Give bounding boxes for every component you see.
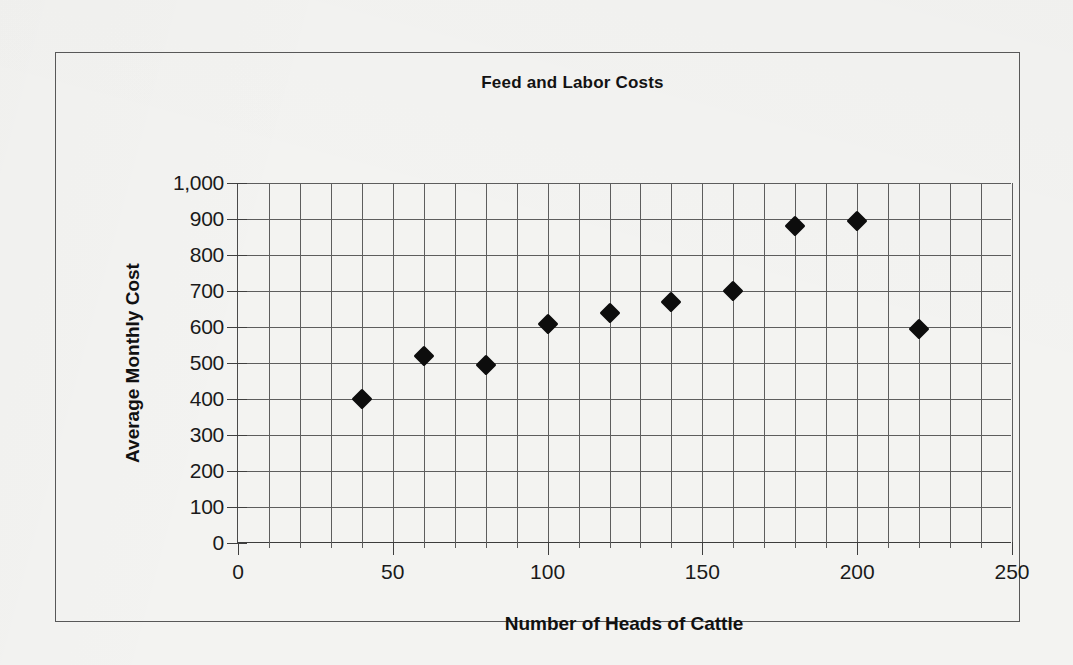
y-axis-tick [227,471,238,472]
y-axis-tick-label: 400 [190,387,224,411]
data-point [537,314,558,335]
x-axis-tick-minor [362,542,363,548]
x-axis-tick-minor [517,542,518,548]
y-axis-tick-inner [238,435,247,436]
x-axis-tick-label: 250 [994,560,1029,584]
gridline-horizontal [238,291,1011,292]
x-axis-title: Number of Heads of Cattle [237,613,1011,635]
y-axis-tick-label: 300 [190,423,224,447]
gridline-horizontal [238,255,1011,256]
y-axis-tick [227,327,238,328]
y-axis-tick-label: 700 [190,279,224,303]
x-axis-tick-minor [331,542,332,548]
data-point [723,280,744,301]
gridline-horizontal [238,183,1011,184]
gridline-horizontal [238,363,1011,364]
gridline-horizontal [238,507,1011,508]
y-axis-tick-inner [238,183,247,184]
x-axis-tick-minor [579,542,580,548]
x-axis-tick [857,542,858,555]
y-axis-tick [227,507,238,508]
x-axis-tick-minor [671,542,672,548]
x-axis-tick [1012,542,1013,555]
x-axis-tick-label: 0 [232,560,244,584]
x-axis-tick-minor [764,542,765,548]
x-axis-tick-minor [424,542,425,548]
y-axis-tick-label: 600 [190,315,224,339]
chart-title: Feed and Labor Costs [56,73,1019,93]
gridline-vertical [1012,183,1013,542]
x-axis-tick [238,542,239,555]
y-axis-title-label: Average Monthly Cost [122,263,144,463]
y-axis-tick [227,291,238,292]
x-axis-tick-minor [950,542,951,548]
data-point [661,291,682,312]
x-axis-tick-label: 50 [381,560,404,584]
x-axis-tick-minor [733,542,734,548]
y-axis-tick-label: 500 [190,351,224,375]
y-axis-tick-inner [238,543,247,544]
y-axis-tick [227,435,238,436]
x-axis-tick-minor [919,542,920,548]
x-axis-tick-minor [455,542,456,548]
gridline-horizontal [238,471,1011,472]
y-axis-tick-inner [238,399,247,400]
x-axis-tick-label: 100 [530,560,565,584]
data-point [909,318,930,339]
y-axis-tick-label: 100 [190,495,224,519]
plot-grid-and-points: 01002003004005006007008009001,0000501001… [238,183,1011,542]
x-axis-tick-minor [795,542,796,548]
x-axis-tick-minor [610,542,611,548]
y-axis-tick [227,543,238,544]
y-axis-tick-inner [238,255,247,256]
y-axis-tick [227,363,238,364]
y-axis-tick-label: 0 [213,531,224,555]
y-axis-tick-label: 900 [190,207,224,231]
y-axis-tick-label: 1,000 [173,171,224,195]
data-point [475,354,496,375]
x-axis-tick-label: 200 [840,560,875,584]
y-axis-tick-inner [238,291,247,292]
y-axis-title: Average Monthly Cost [118,183,148,543]
x-axis-tick-minor [826,542,827,548]
y-axis-tick [227,219,238,220]
gridline-horizontal [238,435,1011,436]
x-axis-tick-minor [888,542,889,548]
x-axis-tick-minor [486,542,487,548]
x-axis-tick-label: 150 [685,560,720,584]
gridline-horizontal [238,327,1011,328]
data-point [599,302,620,323]
chart-frame: Feed and Labor Costs Average Monthly Cos… [55,52,1020,622]
y-axis-tick-inner [238,363,247,364]
x-axis-tick [393,542,394,555]
y-axis-tick [227,183,238,184]
x-axis-tick-minor [269,542,270,548]
page-background: Feed and Labor Costs Average Monthly Cos… [0,0,1073,665]
y-axis-tick-label: 200 [190,459,224,483]
y-axis-tick [227,399,238,400]
y-axis-tick [227,255,238,256]
data-point [847,210,868,231]
data-point [351,388,372,409]
y-axis-tick-inner [238,507,247,508]
y-axis-tick-inner [238,471,247,472]
x-axis-tick [702,542,703,555]
plot-area: 01002003004005006007008009001,0000501001… [237,183,1011,543]
gridline-horizontal [238,219,1011,220]
x-axis-tick-minor [981,542,982,548]
y-axis-tick-label: 800 [190,243,224,267]
y-axis-tick-inner [238,327,247,328]
x-axis-tick-minor [640,542,641,548]
x-axis-tick [548,542,549,555]
y-axis-tick-inner [238,219,247,220]
x-axis-tick-minor [300,542,301,548]
